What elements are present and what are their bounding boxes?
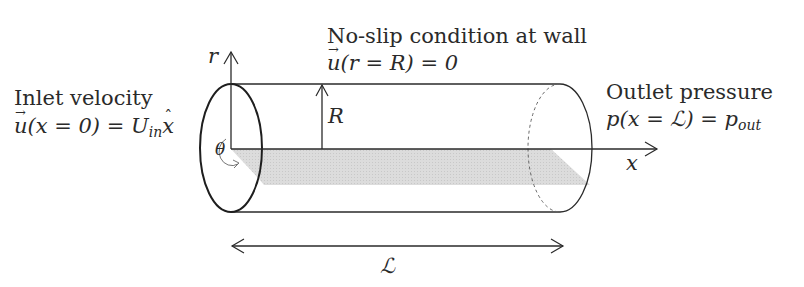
outlet-pressure-subscript: out [738,117,761,133]
wall-heading: No-slip condition at wall [327,24,587,48]
outlet-equation: p(x = ℒ) = pout [606,107,761,131]
velocity-vector-symbol: u [14,114,28,138]
theta-label: θ [215,137,225,161]
inlet-heading: Inlet velocity [14,86,153,110]
inlet-equation-arg: (x = 0) = [28,114,131,138]
r-axis-label: r [208,44,218,68]
x-unit-vector: x [162,114,174,138]
outlet-pressure-symbol: p [725,107,738,131]
x-axis-label: x [626,151,638,175]
outlet-heading: Outlet pressure [606,80,773,104]
inlet-velocity-symbol: U [131,114,149,138]
length-label: ℒ [380,254,395,278]
inlet-equation: u(x = 0) = Uinx [14,114,174,138]
pressure-symbol: p [606,107,619,131]
outlet-equation-arg: (x = ℒ) = [619,107,724,131]
outlet-hidden-arc [528,84,560,212]
radius-label: R [328,104,344,128]
wall-equation-arg: (r = R) = 0 [341,51,459,75]
velocity-vector-symbol: u [327,51,341,75]
inlet-velocity-subscript: in [149,124,163,140]
outlet-end-arc [560,84,592,212]
wall-equation: u(r = R) = 0 [327,51,458,75]
theta-arrowhead [233,160,239,168]
shaded-plane [231,149,590,185]
